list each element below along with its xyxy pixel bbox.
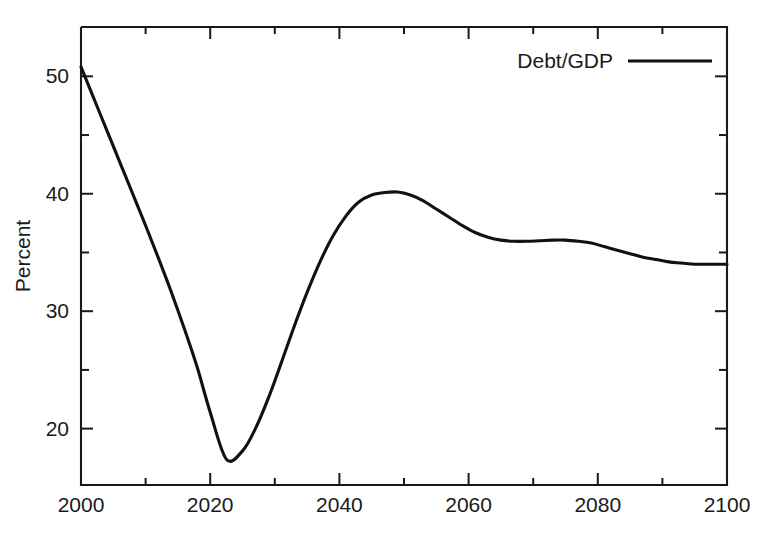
x-tick-label: 2040 bbox=[316, 493, 363, 516]
series-group bbox=[81, 67, 727, 461]
y-tick-label: 30 bbox=[46, 299, 69, 322]
x-tick-label: 2100 bbox=[704, 493, 751, 516]
y-axis-tick-labels: 20304050 bbox=[46, 64, 69, 439]
series-line-debt-gdp bbox=[81, 67, 727, 461]
y-axis-title-group: Percent bbox=[11, 220, 34, 293]
x-tick-label: 2080 bbox=[574, 493, 621, 516]
chart-figure: 200020202040206020802100 20304050 Percen… bbox=[0, 0, 767, 537]
x-axis-tick-labels: 200020202040206020802100 bbox=[58, 493, 751, 516]
axis-frame bbox=[81, 27, 727, 485]
x-tick-label: 2020 bbox=[187, 493, 234, 516]
x-axis-major-ticks bbox=[210, 27, 598, 485]
x-axis-minor-ticks bbox=[146, 27, 663, 485]
y-axis-title: Percent bbox=[11, 220, 34, 293]
plot-border bbox=[81, 27, 727, 485]
x-tick-label: 2060 bbox=[445, 493, 492, 516]
y-tick-label: 20 bbox=[46, 417, 69, 440]
x-tick-label: 2000 bbox=[58, 493, 105, 516]
y-tick-label: 40 bbox=[46, 182, 69, 205]
chart-legend: Debt/GDP bbox=[517, 49, 712, 72]
line-chart: 200020202040206020802100 20304050 Percen… bbox=[0, 0, 767, 537]
legend-label-debt-gdp: Debt/GDP bbox=[517, 49, 613, 72]
y-tick-label: 50 bbox=[46, 64, 69, 87]
